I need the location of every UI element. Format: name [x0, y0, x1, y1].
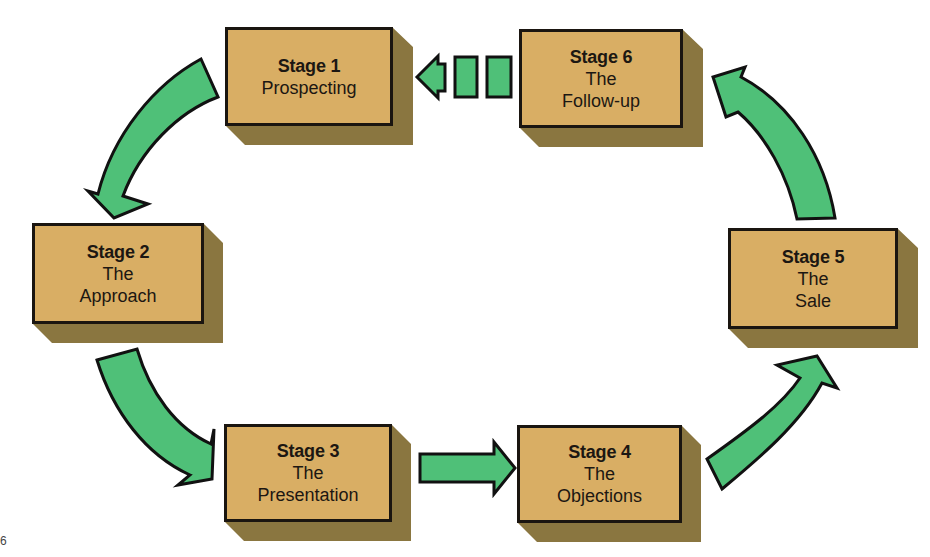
arrow-stage2-to-stage3 — [97, 349, 214, 485]
stage-name-line: Sale — [795, 290, 831, 312]
stage-number-label: Stage 5 — [782, 246, 845, 268]
stage-name-line: Prospecting — [261, 77, 356, 99]
stage-6-node: Stage 6 The Follow-up — [519, 29, 709, 149]
stage-name-line: The — [292, 462, 323, 484]
stage-5-box: Stage 5 The Sale — [728, 228, 898, 329]
stage-name-line: Presentation — [257, 484, 358, 506]
stage-name-line: Objections — [557, 485, 642, 507]
arrow-stage3-to-stage4 — [420, 442, 515, 494]
arrow-stage5-to-stage6 — [713, 67, 835, 219]
stage-name-line: The — [585, 68, 616, 90]
stage-name-line: The — [584, 463, 615, 485]
arrow-stage6-to-stage1-segment-2 — [487, 57, 511, 97]
stage-name-line: Approach — [79, 285, 156, 307]
stage-name-line: The — [797, 268, 828, 290]
stage-number-label: Stage 6 — [570, 46, 633, 68]
arrow-stage4-to-stage5 — [707, 356, 837, 489]
stage-2-node: Stage 2 The Approach — [32, 223, 227, 345]
arrow-stage6-to-stage1-head — [417, 56, 445, 98]
stage-number-label: Stage 1 — [278, 55, 341, 77]
stage-6-box: Stage 6 The Follow-up — [519, 29, 683, 128]
stage-name-line: The — [102, 263, 133, 285]
stage-number-label: Stage 2 — [87, 241, 150, 263]
stage-5-node: Stage 5 The Sale — [728, 228, 923, 350]
stage-1-node: Stage 1 Prospecting — [225, 27, 415, 147]
stage-4-node: Stage 4 The Objections — [517, 425, 707, 545]
arrow-stage1-to-stage2 — [88, 59, 218, 218]
stage-1-box: Stage 1 Prospecting — [225, 27, 393, 126]
stage-number-label: Stage 3 — [277, 440, 340, 462]
stage-3-box: Stage 3 The Presentation — [224, 424, 392, 522]
stage-number-label: Stage 4 — [568, 441, 631, 463]
stage-3-node: Stage 3 The Presentation — [224, 424, 416, 544]
stage-2-box: Stage 2 The Approach — [32, 223, 204, 324]
arrow-stage6-to-stage1-segment-1 — [455, 57, 477, 97]
figure-marker: 6 — [0, 534, 7, 548]
stage-name-line: Follow-up — [562, 90, 640, 112]
stage-4-box: Stage 4 The Objections — [517, 425, 682, 523]
